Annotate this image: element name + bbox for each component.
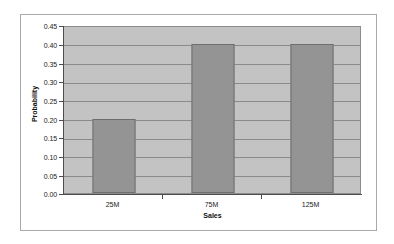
x-axis-line — [63, 194, 362, 195]
y-tick-label: 0.25 — [23, 98, 57, 105]
y-tick-label: 0.20 — [23, 117, 57, 124]
bars-layer — [64, 27, 360, 193]
bar-slot-25M — [64, 27, 163, 193]
chart-frame: 0.45 0.40 0.35 0.30 0.25 0.20 0.15 0.10 … — [20, 14, 377, 231]
y-tick-label: 0.45 — [23, 23, 57, 30]
bar-slot-125M — [262, 27, 361, 193]
y-axis-line — [63, 26, 64, 195]
y-axis-title: Probability — [31, 64, 39, 144]
bar-slot-75M — [163, 27, 262, 193]
y-tick-label: 0.15 — [23, 135, 57, 142]
y-tick-label: 0.40 — [23, 42, 57, 49]
bar-125M[interactable] — [290, 44, 333, 193]
y-tick-label: 0.05 — [23, 173, 57, 180]
plot-area — [63, 26, 361, 194]
x-tick-mark — [162, 195, 163, 199]
y-tick-label: 0.30 — [23, 79, 57, 86]
y-tick-label: 0.00 — [23, 191, 57, 198]
x-axis-title: Sales — [63, 212, 362, 220]
bar-25M[interactable] — [92, 119, 135, 193]
y-tick-label: 0.35 — [23, 61, 57, 68]
bar-75M[interactable] — [191, 44, 234, 193]
x-tick-label-125M: 125M — [261, 201, 360, 209]
x-tick-mark — [261, 195, 262, 199]
x-tick-label-25M: 25M — [63, 201, 162, 209]
y-tick-label: 0.10 — [23, 154, 57, 161]
x-tick-label-75M: 75M — [162, 201, 261, 209]
